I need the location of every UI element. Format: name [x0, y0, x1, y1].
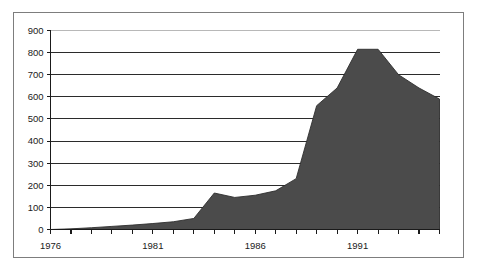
- x-tick-label-1981: 1981: [142, 240, 163, 251]
- y-tick-label-0: 0: [38, 224, 43, 235]
- x-tick-label-1991: 1991: [347, 240, 368, 251]
- y-tick-label-700: 700: [28, 69, 44, 80]
- y-tick-label-100: 100: [28, 202, 44, 213]
- y-tick-label-500: 500: [28, 113, 44, 124]
- chart-frame: 0100200300400500600700800900197619811986…: [13, 12, 464, 258]
- area-chart: 0100200300400500600700800900197619811986…: [14, 13, 463, 257]
- y-tick-label-600: 600: [28, 91, 44, 102]
- y-tick-label-400: 400: [28, 135, 44, 146]
- chart-figure: 0100200300400500600700800900197619811986…: [0, 0, 480, 276]
- y-tick-label-200: 200: [28, 180, 44, 191]
- x-tick-label-1976: 1976: [40, 240, 61, 251]
- y-tick-label-900: 900: [28, 25, 44, 36]
- x-tick-label-1986: 1986: [245, 240, 266, 251]
- y-tick-label-300: 300: [28, 158, 44, 169]
- y-tick-label-800: 800: [28, 47, 44, 58]
- data-area-series: [51, 49, 440, 229]
